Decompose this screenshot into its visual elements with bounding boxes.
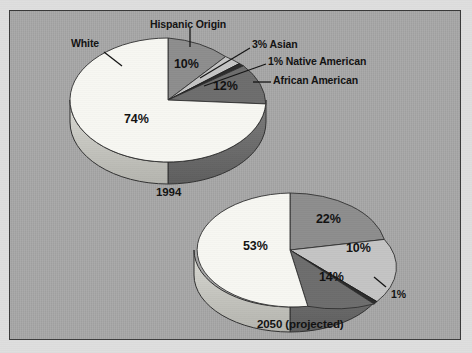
pie-2050-group xyxy=(194,193,396,332)
label-year-2050: 2050 (projected) xyxy=(257,318,344,330)
value-hispanic-origin-2050: 22% xyxy=(316,212,341,226)
value-native-american-2050: 1% xyxy=(391,288,406,300)
value-white-1994: 74% xyxy=(124,112,149,126)
label-hispanic-origin-1994: Hispanic Origin xyxy=(150,18,226,30)
label-year-1994: 1994 xyxy=(156,186,181,198)
label-native-american-1994: 1% Native American xyxy=(268,55,366,67)
label-white-1994: White xyxy=(71,37,99,49)
pie-charts-svg xyxy=(0,0,472,353)
label-african-american-1994: African American xyxy=(273,74,358,86)
value-white-2050: 53% xyxy=(243,239,268,253)
value-african-american-1994: 12% xyxy=(213,79,238,93)
label-asian-1994: 3% Asian xyxy=(252,38,298,50)
figure-page: White Hispanic Origin 3% Asian 1% Native… xyxy=(0,0,472,353)
pie-1994-group xyxy=(70,28,271,184)
value-hispanic-origin-1994: 10% xyxy=(174,57,199,71)
value-african-american-2050: 14% xyxy=(319,270,344,284)
value-asian-2050: 10% xyxy=(346,241,371,255)
